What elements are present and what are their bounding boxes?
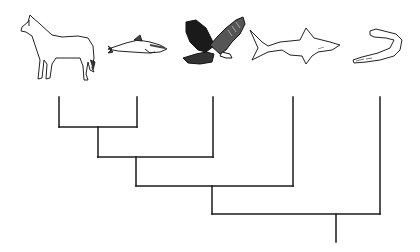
lamprey-illustration (353, 29, 402, 63)
cladogram-tree (59, 97, 380, 242)
shark-illustration (250, 28, 340, 64)
eagle-illustration (183, 17, 245, 64)
horse-illustration (21, 15, 95, 80)
dolphin-illustration (108, 35, 167, 53)
cladogram-canvas (0, 0, 420, 252)
